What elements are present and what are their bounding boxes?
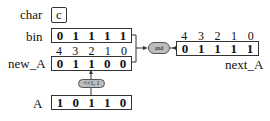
bit: 0 [52, 57, 68, 70]
bit: 0 [115, 57, 131, 70]
bit: 0 [177, 42, 193, 55]
bit: 1 [68, 57, 84, 70]
bit: 0 [52, 29, 68, 42]
next-a-register: 0 1 1 1 1 [176, 41, 259, 56]
a-register: 1 0 1 1 0 [51, 95, 132, 110]
bit: 1 [52, 96, 68, 109]
bit: 1 [226, 42, 242, 55]
bit: 1 [84, 57, 100, 70]
bit: 0 [115, 96, 131, 109]
bit: 1 [84, 96, 100, 109]
new-a-register: 0 1 1 0 0 [51, 56, 132, 71]
char-value-box: c [51, 7, 67, 23]
bit: 0 [68, 96, 84, 109]
bit: 1 [242, 42, 258, 55]
bit: 1 [209, 42, 225, 55]
bin-register: 0 1 1 1 1 [51, 28, 132, 43]
bit: 1 [84, 29, 100, 42]
bin-label: bin [26, 30, 43, 44]
next-a-label: next_A [225, 58, 263, 72]
bit: 1 [99, 96, 115, 109]
and-operator: and [148, 42, 170, 54]
shift-operator: <<1, 1 [78, 79, 105, 88]
char-label: char [20, 8, 42, 22]
bit: 1 [99, 29, 115, 42]
bit: 1 [193, 42, 209, 55]
bit: 0 [99, 57, 115, 70]
bit: 1 [68, 29, 84, 42]
bit: 1 [115, 29, 131, 42]
new-a-label: new_A [8, 57, 46, 71]
a-label: A [33, 97, 42, 111]
